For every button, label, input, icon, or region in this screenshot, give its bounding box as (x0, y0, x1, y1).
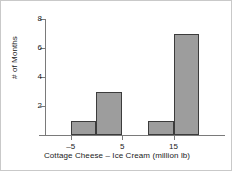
x-axis-line (39, 135, 225, 136)
y-tick-label: 8 (38, 14, 42, 24)
y-tick-label: 2 (38, 101, 42, 111)
plot-area: 2468 –5515 (45, 19, 225, 135)
histogram-bar (96, 92, 122, 136)
y-axis-line (45, 19, 46, 136)
histogram-figure: # of Months 2468 –5515 Cottage Cheese – … (0, 0, 232, 171)
y-axis-title: # of Months (10, 18, 19, 98)
histogram-bar (174, 34, 200, 136)
x-tick-mark (174, 135, 175, 140)
y-tick-label: 6 (38, 43, 42, 53)
x-axis-title: Cottage Cheese – Ice Cream (million lb) (1, 151, 232, 160)
x-tick-mark (71, 135, 72, 140)
histogram-bar (71, 121, 97, 136)
y-tick-label: 4 (38, 72, 42, 82)
histogram-bar (148, 121, 174, 136)
x-tick-mark (122, 135, 123, 140)
